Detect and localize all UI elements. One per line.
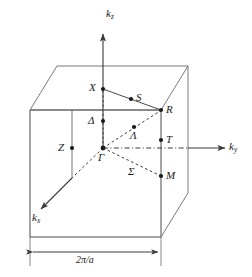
- point-marker-T: [159, 138, 163, 142]
- symmetry-point-label-Gamma: Γ: [98, 152, 104, 163]
- ky-axis-label: ky: [229, 141, 237, 154]
- kx-axis-subscript: x: [37, 216, 40, 225]
- kx-axis-label: kx: [32, 212, 40, 225]
- symmetry-point-label-Sigma: Σ: [128, 166, 135, 177]
- point-marker-X: [101, 87, 105, 91]
- brillouin-zone-drawing: [0, 0, 252, 277]
- kz-axis-subscript: z: [111, 12, 114, 21]
- point-marker-Z: [70, 146, 74, 150]
- point-marker-Gamma: [101, 146, 106, 151]
- dimension-label: 2π/a: [76, 255, 94, 265]
- point-marker-M: [159, 174, 163, 178]
- cube-front-face: [30, 110, 161, 237]
- brillouin-zone-figure: kz ky kx X S R Δ Λ T Z Γ Σ M 2π/a: [0, 0, 252, 277]
- symmetry-point-label-M: M: [166, 170, 175, 181]
- kz-axis-label: kz: [106, 8, 114, 21]
- symmetry-point-label-T: T: [166, 134, 172, 145]
- symmetry-point-label-R: R: [166, 104, 173, 115]
- symmetry-point-label-X: X: [89, 82, 96, 93]
- ky-axis-subscript: y: [234, 145, 237, 154]
- symmetry-point-label-Delta: Δ: [88, 115, 94, 126]
- kx-axis-line: [41, 178, 72, 209]
- symmetry-point-label-Z: Z: [58, 142, 64, 153]
- point-marker-S: [129, 97, 133, 101]
- point-marker-Delta: [101, 119, 105, 123]
- point-marker-R: [159, 108, 163, 112]
- symmetry-point-label-S: S: [136, 92, 142, 103]
- symmetry-point-markers: [70, 87, 163, 178]
- symmetry-point-label-Lambda: Λ: [130, 130, 137, 141]
